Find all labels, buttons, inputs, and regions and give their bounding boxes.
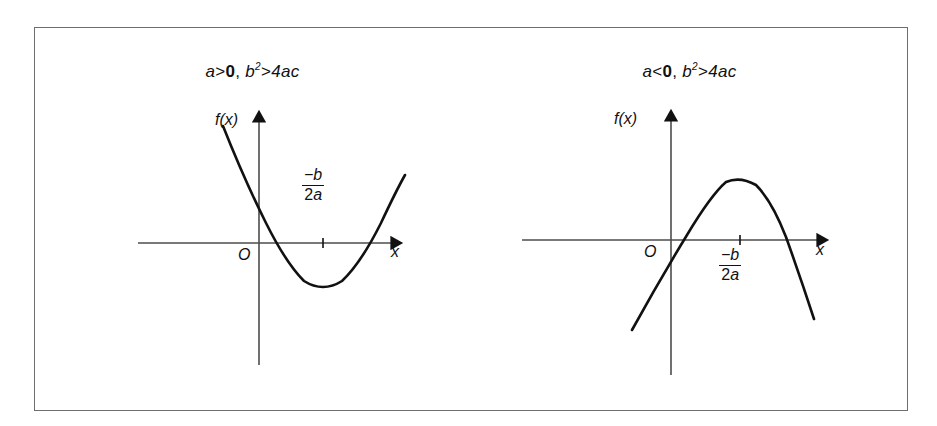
panel-right-plot [471, 27, 908, 411]
left-x-axis-label: x [391, 243, 399, 261]
right-vertex-numerator: −b [719, 247, 741, 266]
right-vertex-denominator-a: a [730, 266, 739, 283]
figure-root: a>0, b2>4ac [0, 0, 937, 426]
right-vertex-label: −b 2a [719, 247, 741, 284]
left-vertex-numerator: −b [302, 167, 324, 186]
left-vertex-denominator-two: 2 [304, 186, 313, 203]
right-origin-label: O [644, 243, 656, 261]
right-x-axis-label: x [816, 241, 824, 259]
panel-a-negative: a<0, b2>4ac [471, 27, 908, 411]
left-origin-label: O [238, 246, 250, 264]
left-vertex-denominator: 2a [302, 186, 324, 204]
panel-a-positive: a>0, b2>4ac [34, 27, 471, 411]
panel-left-plot [34, 27, 471, 411]
left-y-axis-label: f(x) [215, 111, 238, 129]
left-vertex-denominator-a: a [313, 186, 322, 203]
right-vertex-denominator: 2a [719, 266, 741, 284]
right-vertex-denominator-two: 2 [721, 266, 730, 283]
left-vertex-label: −b 2a [302, 167, 324, 204]
right-y-axis-label: f(x) [614, 110, 637, 128]
